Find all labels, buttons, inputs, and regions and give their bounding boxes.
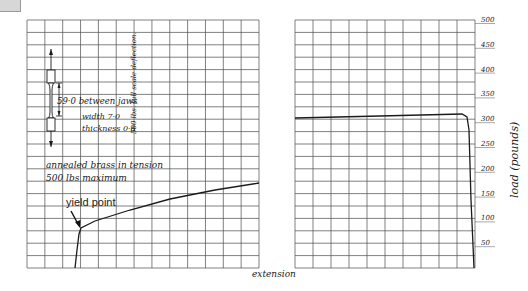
material-label: annealed brass in tension <box>46 160 163 170</box>
full-scale-label: 500 lbs. full scale deflection. <box>130 32 138 134</box>
right-load-curve <box>295 114 474 268</box>
dimension-arrow-bottom-icon <box>58 111 61 116</box>
arrow-up-icon <box>49 49 53 55</box>
y-tick-label: 250 <box>480 140 495 148</box>
x-axis-label: extension <box>252 269 296 279</box>
y-tick-label: 350 <box>481 90 495 98</box>
figure-canvas: 59·0 between jaws width 7·0 thickness 0·… <box>0 0 528 291</box>
y-axis-label: load (pounds) <box>508 122 521 198</box>
yield-point-arrow <box>71 211 81 228</box>
specimen-gauge-section <box>49 83 54 118</box>
left-chart-grid <box>27 20 259 268</box>
y-tick-label: 50 <box>481 239 490 247</box>
width-label: width 7·0 <box>82 112 120 121</box>
yield-point-label: yield point <box>66 196 116 208</box>
y-tick-label: 150 <box>481 190 495 198</box>
y-axis-ticks: 50100150200250300350400450500 <box>475 16 495 247</box>
gauge-length-label: 59·0 between jaws <box>57 96 138 106</box>
dimension-arrow-top-icon <box>58 83 61 88</box>
right-chart-grid <box>295 20 475 268</box>
y-tick-label: 500 <box>481 16 495 24</box>
thickness-label: thickness 0·6 <box>82 124 136 133</box>
y-tick-label: 450 <box>480 41 495 49</box>
y-tick-label: 400 <box>480 66 495 74</box>
y-tick-label: 100 <box>481 214 495 222</box>
y-tick-label: 200 <box>480 165 495 173</box>
specimen-lower-grip <box>47 118 55 131</box>
y-tick-label: 300 <box>481 115 495 123</box>
specimen-upper-grip <box>47 70 55 83</box>
max-load-label: 500 lbs maximum <box>46 173 127 183</box>
